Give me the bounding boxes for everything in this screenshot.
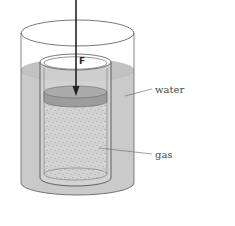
water-label: water bbox=[155, 84, 184, 95]
force-label: F bbox=[79, 56, 85, 66]
outer-rim bbox=[21, 20, 134, 46]
gas-piston-diagram: F water gas bbox=[0, 0, 235, 226]
gas-label: gas bbox=[155, 149, 173, 160]
